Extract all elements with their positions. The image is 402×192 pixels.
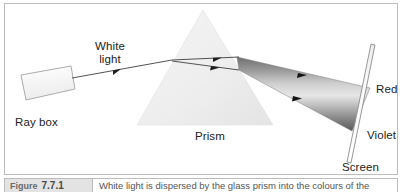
illustration-panel: White light Ray box Prism Red Violet Scr… bbox=[4, 3, 398, 175]
figure-caption-number: 7.7.1 bbox=[42, 180, 64, 191]
label-red: Red bbox=[376, 83, 397, 96]
label-prism: Prism bbox=[195, 130, 225, 143]
label-white-light: White light bbox=[87, 40, 133, 66]
label-screen: Screen bbox=[342, 161, 379, 174]
figure-caption-word: Figure bbox=[10, 181, 38, 191]
figure-number-cell: Figure 7.7.1 bbox=[5, 179, 93, 192]
figure-caption-text: White light is dispersed by the glass pr… bbox=[99, 180, 369, 191]
label-white-light-line1: White bbox=[87, 40, 133, 53]
figure-caption-text-cell: White light is dispersed by the glass pr… bbox=[93, 179, 397, 192]
label-white-light-line2: light bbox=[87, 53, 133, 66]
figure-caption-strip: Figure 7.7.1 White light is dispersed by… bbox=[4, 178, 398, 192]
prism-dispersion-diagram bbox=[5, 4, 397, 174]
label-ray-box: Ray box bbox=[15, 116, 58, 129]
figure-root: White light Ray box Prism Red Violet Scr… bbox=[0, 0, 402, 192]
ray-box-shape bbox=[21, 66, 75, 100]
label-violet: Violet bbox=[367, 129, 396, 142]
